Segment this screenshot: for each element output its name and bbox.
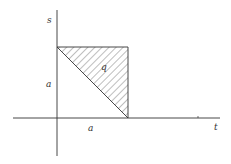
- x-tick-label: a: [88, 123, 93, 133]
- diagram-canvas: s a a t q: [0, 0, 231, 164]
- x-axis-label: t: [214, 122, 218, 132]
- region-label: q: [101, 62, 107, 72]
- y-axis-label: s: [47, 15, 52, 25]
- y-tick-label: a: [46, 79, 51, 89]
